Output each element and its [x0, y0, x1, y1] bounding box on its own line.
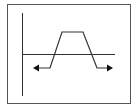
pulse-diagram	[0, 0, 136, 111]
trapezoid-waveform	[38, 32, 108, 68]
right-arrow-icon	[107, 65, 113, 72]
left-arrow-icon	[33, 65, 39, 72]
